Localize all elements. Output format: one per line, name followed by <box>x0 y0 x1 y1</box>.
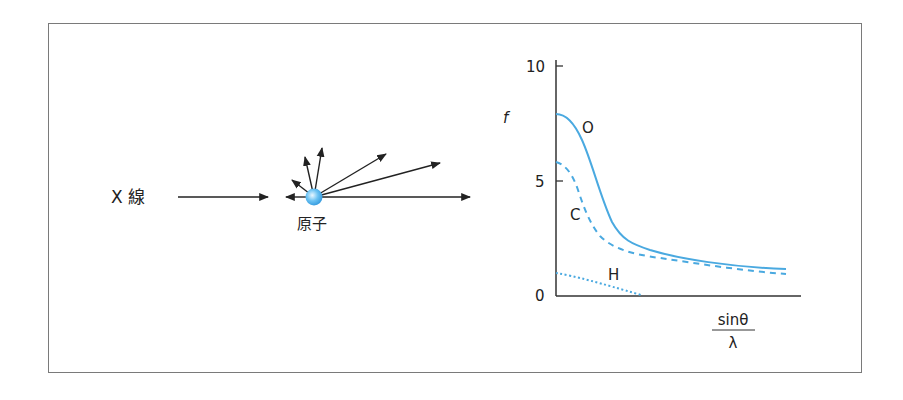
scattering-factor-chart: 10 5 0 f sinθ λ O C H <box>503 58 801 352</box>
figure-canvas: X 線 原子 10 5 0 f sinθ λ O <box>0 0 903 400</box>
scatter-arrow-15deg <box>314 163 440 197</box>
series-O-line <box>556 114 786 269</box>
scatter-arrow-30deg <box>314 154 386 197</box>
series-H-label: H <box>608 266 619 284</box>
series-O-label: O <box>582 119 594 137</box>
x-axis-label-denominator: λ <box>729 334 738 352</box>
y-axis-label: f <box>503 109 511 127</box>
series-H-line <box>556 273 641 295</box>
y-tick-label-10: 10 <box>526 58 545 76</box>
y-tick-label-5: 5 <box>535 173 545 191</box>
series-C-label: C <box>570 206 580 224</box>
y-tick-label-0: 0 <box>535 287 545 305</box>
scattering-diagram: X 線 原子 <box>111 148 470 233</box>
atom-label: 原子 <box>297 215 327 233</box>
xray-label: X 線 <box>111 187 145 207</box>
atom-icon <box>306 189 323 206</box>
series-C-line <box>556 162 786 274</box>
x-axis-label-numerator: sinθ <box>718 311 749 329</box>
